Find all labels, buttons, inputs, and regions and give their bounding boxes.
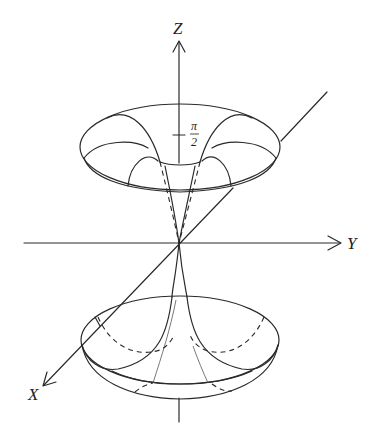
cusp-hidden-left bbox=[160, 162, 179, 243]
y-axis-label: Y bbox=[347, 234, 358, 253]
tick-label-denominator: 2 bbox=[191, 135, 197, 149]
upper-inner-lip-left bbox=[84, 142, 148, 158]
upper-throat-rim bbox=[160, 162, 200, 165]
lower-meridian-left bbox=[153, 300, 176, 383]
upper-inner-lip-right bbox=[212, 142, 276, 158]
upper-meridian-right bbox=[200, 115, 252, 162]
x-axis-label: X bbox=[27, 385, 39, 404]
lower-dish-surface bbox=[81, 296, 279, 399]
neck-lower-right bbox=[179, 243, 187, 297]
z-axis-label: Z bbox=[173, 19, 183, 38]
upper-bump-right bbox=[202, 157, 231, 186]
lower-hidden-connector-right bbox=[212, 384, 232, 391]
tick-label-numerator: π bbox=[191, 119, 198, 133]
diagram-canvas: Z Y X π 2 bbox=[0, 0, 376, 435]
lower-spindle-left bbox=[82, 297, 172, 369]
cusp-visible-right bbox=[179, 166, 195, 243]
surface-diagram: Z Y X π 2 bbox=[0, 0, 376, 435]
lower-hidden-arc-right bbox=[190, 317, 264, 352]
lower-top-rim bbox=[81, 296, 279, 384]
axis-labels: Z Y X π 2 bbox=[27, 19, 358, 404]
axes bbox=[24, 41, 341, 422]
lower-meridian-right bbox=[193, 346, 208, 383]
upper-bump-left bbox=[128, 157, 158, 186]
x-axis-front bbox=[44, 188, 233, 385]
lower-spindle-right bbox=[187, 297, 278, 369]
lower-hidden-connector-left bbox=[135, 383, 153, 392]
upper-torus-surface bbox=[80, 104, 280, 192]
cusp-hidden-right bbox=[179, 162, 200, 243]
cusp-visible-left bbox=[165, 166, 179, 243]
x-axis-back-upper bbox=[281, 92, 327, 141]
upper-meridian-left bbox=[107, 115, 160, 162]
upper-front-inner-rim bbox=[84, 158, 276, 192]
lower-left-rim-mark bbox=[95, 317, 100, 326]
